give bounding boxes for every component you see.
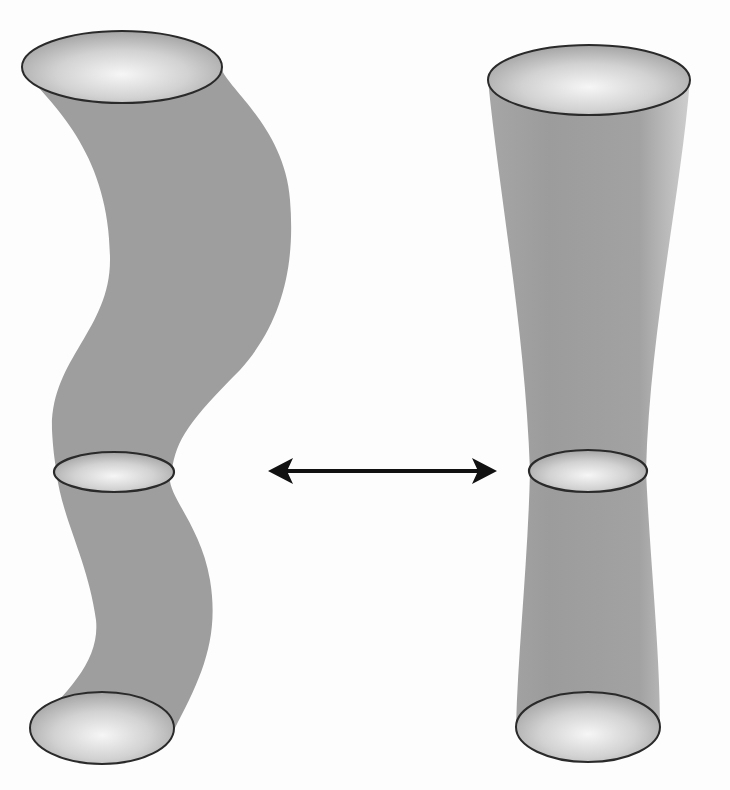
left-middle-rim xyxy=(54,452,174,492)
diagram-canvas xyxy=(0,0,730,790)
double-arrow-icon xyxy=(268,458,497,484)
right-tube-body xyxy=(488,80,690,727)
right-bottom-rim xyxy=(516,692,660,762)
right-top-rim xyxy=(488,45,690,115)
left-top-rim xyxy=(22,31,222,103)
right-middle-rim xyxy=(529,450,647,492)
left-wavy-tube xyxy=(22,31,291,764)
right-hourglass-tube xyxy=(488,45,690,762)
left-tube-body xyxy=(22,70,291,730)
left-bottom-rim xyxy=(30,692,174,764)
tube-comparison-figure xyxy=(0,0,730,790)
